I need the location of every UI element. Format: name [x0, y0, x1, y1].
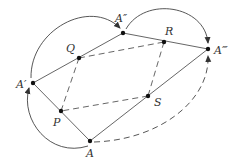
dashed-quadrilateral	[61, 42, 164, 111]
segment-s-p	[61, 96, 148, 111]
label-r: R	[164, 25, 173, 38]
label-a2: A″	[114, 12, 128, 25]
point-q	[77, 56, 81, 60]
point-a2	[121, 31, 125, 35]
point-a3	[206, 47, 210, 51]
label-a1: A′	[15, 78, 27, 91]
label-p: P	[52, 116, 61, 129]
diagram-svg: A′ A″ A‴ A P Q R S	[0, 0, 241, 161]
point-a1	[31, 81, 35, 85]
point-p	[59, 109, 63, 113]
segment-r-s	[148, 42, 164, 96]
label-s: S	[154, 96, 162, 109]
label-q: Q	[66, 42, 75, 55]
arrow-a-to-a3-dashed	[94, 56, 208, 142]
label-a3: A‴	[213, 44, 228, 57]
point-a	[88, 139, 92, 143]
point-r	[162, 40, 166, 44]
point-s	[146, 94, 150, 98]
label-a: A	[85, 147, 94, 160]
diagram-canvas: A′ A″ A‴ A P Q R S	[0, 0, 241, 161]
